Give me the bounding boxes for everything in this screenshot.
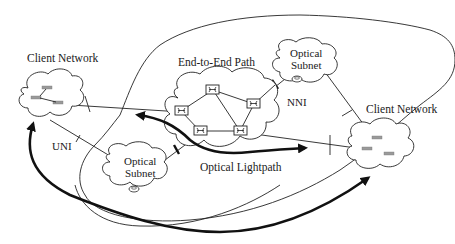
optical-switch-icon [234, 126, 247, 135]
nni-label: NNI [287, 96, 307, 108]
network-diagram: Client Network End-to-End Path Optical S… [0, 0, 455, 244]
device-icon [31, 96, 41, 99]
device-icon [362, 147, 372, 150]
end-to-end-path-label: End-to-End Path [178, 56, 255, 68]
client-network-right-label: Client Network [366, 103, 437, 115]
lower-boundary-curve [75, 185, 280, 226]
uni-tick-right-top [342, 110, 352, 116]
optical-switch-icon [175, 106, 188, 115]
client-network-right-cloud [347, 118, 414, 168]
optical-lightpath-label: Optical Lightpath [200, 161, 282, 174]
device-icon [372, 136, 382, 139]
uni-label: UNI [52, 140, 72, 152]
optical-subnet-bottom-label-line2: Subnet [125, 167, 156, 179]
client-network-left-label: Client Network [27, 52, 98, 64]
optical-switch-icon [206, 85, 219, 94]
device-icon [42, 86, 52, 89]
optical-subnet-bottom-label-line1: Optical [124, 155, 156, 167]
optical-switch-icon [247, 99, 260, 108]
device-icon [384, 152, 394, 155]
optical-subnet-top-label-line2: Subnet [291, 59, 322, 71]
optical-switch-icon [194, 126, 207, 135]
uni-tick-left-top [85, 96, 90, 112]
client-network-left-cloud [19, 69, 84, 116]
optical-subnet-top-label-line1: Optical [290, 47, 322, 59]
